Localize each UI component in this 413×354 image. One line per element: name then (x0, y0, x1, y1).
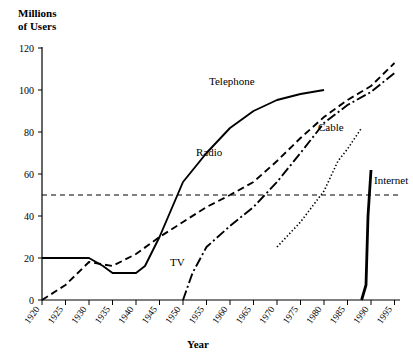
x-tick-label: 1945 (140, 304, 159, 326)
line-chart: Millions of Users 120 100 80 60 40 20 0 (0, 0, 413, 354)
x-tick-label: 1960 (211, 304, 230, 326)
x-tick-label: 1975 (281, 304, 300, 326)
y-axis-title-line1: Millions (18, 7, 57, 19)
x-tick-label: 1930 (70, 304, 89, 326)
series-line-tv (183, 73, 395, 300)
y-tick-label: 20 (24, 253, 34, 264)
y-tick-label: 120 (19, 43, 34, 54)
x-tick-label: 1980 (305, 304, 324, 326)
x-axis-title: Year (187, 338, 209, 350)
series-line-radio (42, 63, 395, 300)
x-tick-label: 1985 (328, 304, 347, 326)
series-line-cable (277, 128, 362, 247)
y-tick-label: 60 (24, 169, 34, 180)
series-line-internet (362, 170, 371, 300)
series-label-telephone: Telephone (209, 75, 255, 87)
y-tick-label: 80 (24, 127, 34, 138)
x-tick-label: 1965 (234, 304, 253, 326)
x-tick-label: 1970 (258, 304, 277, 326)
y-tick-label: 40 (24, 211, 34, 222)
x-axis-ticks (42, 300, 395, 305)
x-tick-label: 1990 (352, 304, 371, 326)
series-label-radio: Radio (196, 146, 223, 158)
x-axis-tick-labels: 1920 1925 1930 1935 1940 1945 1950 1955 … (23, 304, 395, 326)
x-tick-label: 1955 (187, 304, 206, 326)
y-axis-ticks: 120 100 80 60 40 20 0 (19, 43, 42, 306)
x-tick-label: 1920 (23, 304, 42, 326)
x-tick-label: 1935 (93, 304, 112, 326)
y-tick-label: 100 (19, 85, 34, 96)
x-tick-label: 1950 (164, 304, 183, 326)
chart-container: Millions of Users 120 100 80 60 40 20 0 (0, 0, 413, 354)
x-tick-label: 1940 (117, 304, 136, 326)
y-axis-title-line2: of Users (18, 20, 57, 32)
series-label-tv: TV (170, 256, 185, 268)
series-line-telephone (42, 90, 324, 273)
series-label-internet: Internet (374, 174, 408, 186)
x-tick-label: 1995 (375, 304, 394, 326)
series-label-cable: Cable (318, 121, 344, 133)
x-tick-label: 1925 (46, 304, 65, 326)
